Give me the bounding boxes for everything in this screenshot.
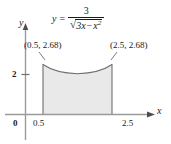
- point-label-right: (2.5, 2.68): [110, 40, 148, 50]
- x-axis-label: x: [157, 105, 161, 116]
- radicand: 3x−x2: [75, 19, 102, 31]
- radicand-exponent: 2: [98, 19, 102, 27]
- y-tick-label-2: 2: [12, 69, 17, 79]
- radicand-term1: 3x: [76, 20, 85, 31]
- equation-denominator: √ 3x−x2: [68, 18, 104, 31]
- x-tick-label-left: 0.5: [33, 118, 44, 128]
- equation-fraction: 3 √ 3x−x2: [68, 6, 104, 31]
- equation-numerator: 3: [81, 6, 92, 17]
- x-tick-label-right: 2.5: [122, 118, 133, 128]
- point-label-left: (0.5, 2.68): [24, 40, 62, 50]
- figure-container: y = 3 √ 3x−x2 (0.5, 2.68) (2.5, 2.68) y …: [0, 0, 171, 144]
- y-axis-arrow: [23, 23, 29, 30]
- origin-label: 0: [13, 118, 18, 128]
- right-label-leader: [111, 52, 117, 60]
- equation-equals: =: [58, 13, 66, 24]
- radical-group: √ 3x−x2: [70, 19, 102, 31]
- equation-lhs: y: [52, 13, 56, 24]
- shaded-region: [43, 65, 112, 115]
- equation-label: y = 3 √ 3x−x2: [52, 6, 104, 31]
- y-axis-label: y: [19, 17, 23, 28]
- left-label-leader: [39, 52, 45, 60]
- x-axis-arrow: [147, 112, 155, 118]
